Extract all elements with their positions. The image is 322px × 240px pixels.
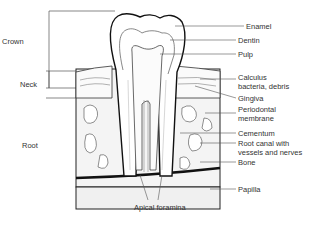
label-periodontal-line1: Periodontal	[238, 105, 276, 114]
label-gingiva: Gingiva	[238, 94, 263, 103]
label-cementum: Cementum	[238, 129, 275, 138]
label-apical-foramina: Apical foramina	[134, 203, 186, 212]
label-dentin: Dentin	[238, 36, 260, 45]
label-periodontal: Periodontal membrane	[238, 105, 276, 123]
label-calculus: Calculus bacteria, debris	[238, 73, 289, 91]
label-papilla: Papilla	[238, 185, 261, 194]
label-root-canal: Root canal with vessels and nerves	[238, 139, 302, 157]
region-label-crown: Crown	[2, 37, 24, 46]
label-periodontal-line2: membrane	[238, 114, 276, 123]
region-label-neck: Neck	[20, 80, 37, 89]
label-bone: Bone	[238, 158, 256, 167]
label-root-canal-line2: vessels and nerves	[238, 148, 302, 157]
label-calculus-line1: Calculus	[238, 73, 289, 82]
label-calculus-line2: bacteria, debris	[238, 82, 289, 91]
label-root-canal-line1: Root canal with	[238, 139, 302, 148]
region-label-root: Root	[22, 141, 38, 150]
label-pulp: Pulp	[238, 50, 253, 59]
label-enamel: Enamel	[246, 22, 271, 31]
